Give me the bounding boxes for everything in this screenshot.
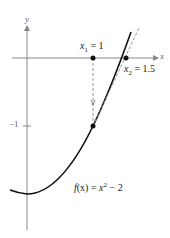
x2-label: x2 = 1.5: [124, 63, 155, 77]
x-axis-label: x: [160, 51, 164, 61]
function-label: f(x) = x2 − 2: [74, 181, 123, 193]
point-f-x1: [91, 124, 96, 129]
x1-value: = 1: [88, 40, 104, 51]
point-x1: [91, 56, 96, 61]
x1-label: x1 = 1: [80, 40, 104, 54]
func-tail: − 2: [107, 182, 123, 193]
point-x2: [124, 56, 129, 61]
chart-canvas: [0, 0, 170, 238]
x2-value: = 1.5: [132, 63, 155, 74]
y-axis-label: y: [25, 14, 29, 24]
y-tick-label: −1: [9, 119, 19, 129]
func-x: (x) =: [77, 182, 99, 193]
function-curve: [10, 32, 131, 194]
